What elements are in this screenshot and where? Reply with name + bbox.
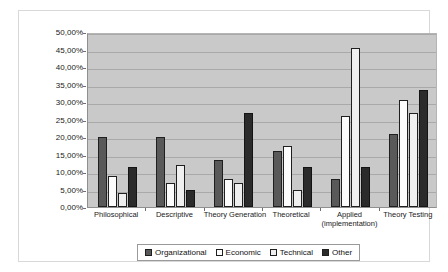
bar-organizational [273, 151, 282, 207]
y-axis: 50,00%45,00%40,00%35,00%30,00%25,00%20,0… [31, 33, 83, 208]
bar-technical [351, 48, 360, 207]
legend-swatch-icon [216, 249, 223, 256]
bar-other [361, 167, 370, 207]
y-axis-tick-label: 25,00% [35, 117, 83, 125]
y-axis-tick-mark [83, 173, 86, 174]
bar-technical [293, 190, 302, 208]
bar-technical [176, 165, 185, 207]
legend-label: Organizational [155, 248, 207, 257]
bar-organizational [214, 160, 223, 207]
y-axis-tick-mark [83, 86, 86, 87]
y-axis-tick-label: 5,00% [35, 187, 83, 195]
y-axis-tick-label: 0,00% [35, 204, 83, 212]
y-axis-tick-mark [83, 208, 86, 209]
legend-entry: Economic [216, 248, 261, 257]
legend-label: Technical [280, 248, 313, 257]
x-axis-tick-mark [379, 208, 380, 211]
bar-group [263, 34, 321, 207]
x-axis-tick-label: Theory Generation [204, 210, 262, 219]
bar-organizational [156, 137, 165, 207]
bar-other [244, 113, 253, 208]
legend-swatch-icon [270, 249, 277, 256]
x-axis-tick-label-line: Theory Generation [204, 210, 267, 219]
bar-organizational [331, 179, 340, 207]
y-axis-tick-label: 15,00% [35, 152, 83, 160]
x-axis-tick-label-line: (implementation) [320, 219, 378, 228]
bar-group [321, 34, 379, 207]
bar-group [88, 34, 146, 207]
legend-label: Economic [226, 248, 261, 257]
bar-technical [409, 113, 418, 208]
bar-group [380, 34, 438, 207]
legend-entry: Other [322, 248, 352, 257]
legend-label: Other [332, 248, 352, 257]
x-axis-tick-label: Theoretical [262, 210, 320, 219]
x-axis-tick-mark [320, 208, 321, 211]
plot-area [87, 33, 437, 208]
bar-technical [118, 193, 127, 207]
bar-group [146, 34, 204, 207]
x-axis-tick-mark [204, 208, 205, 211]
y-axis-tick-label: 20,00% [35, 134, 83, 142]
bar-economic [283, 146, 292, 207]
bar-economic [166, 183, 175, 208]
x-axis-tick-label: Philosophical [87, 210, 145, 219]
y-axis-tick-mark [83, 51, 86, 52]
legend-entry: Organizational [145, 248, 207, 257]
bar-economic [108, 176, 117, 208]
y-axis-tick-mark [83, 68, 86, 69]
y-axis-tick-label: 10,00% [35, 169, 83, 177]
legend-swatch-icon [145, 249, 152, 256]
chart-frame: 50,00%45,00%40,00%35,00%30,00%25,00%20,0… [18, 10, 430, 262]
bar-other [419, 90, 428, 207]
x-axis-tick-label: Applied(implementation) [320, 210, 378, 228]
bar-group [205, 34, 263, 207]
bar-organizational [389, 134, 398, 208]
y-axis-tick-label: 30,00% [35, 99, 83, 107]
y-axis-tick-label: 35,00% [35, 82, 83, 90]
x-axis-tick-mark [145, 208, 146, 211]
chart-legend: OrganizationalEconomicTechnicalOther [137, 244, 360, 261]
y-axis-tick-mark [83, 33, 86, 34]
x-axis-tick-label-line: Theory Testing [383, 210, 432, 219]
bar-other [128, 167, 137, 207]
x-axis-tick-label: Descriptive [145, 210, 203, 219]
bar-economic [224, 179, 233, 207]
x-axis-tick-label-line: Philosophical [94, 210, 138, 219]
x-axis-tick-mark [262, 208, 263, 211]
legend-swatch-icon [322, 249, 329, 256]
x-axis-tick-label-line: Descriptive [156, 210, 193, 219]
x-axis: PhilosophicalDescriptiveTheory Generatio… [87, 210, 437, 238]
bar-other [303, 167, 312, 207]
legend-entry: Technical [270, 248, 313, 257]
y-axis-tick-label: 45,00% [35, 47, 83, 55]
y-axis-tick-mark [83, 121, 86, 122]
bar-organizational [98, 137, 107, 207]
x-axis-tick-label-line: Theoretical [273, 210, 310, 219]
x-axis-tick-label-line: Applied [337, 210, 362, 219]
bar-economic [341, 116, 350, 207]
bar-economic [399, 100, 408, 207]
bar-other [186, 190, 195, 208]
x-axis-tick-label: Theory Testing [379, 210, 437, 219]
y-axis-tick-mark [83, 191, 86, 192]
y-axis-tick-mark [83, 156, 86, 157]
y-axis-tick-label: 50,00% [35, 29, 83, 37]
y-axis-tick-mark [83, 103, 86, 104]
bar-technical [234, 183, 243, 208]
y-axis-tick-mark [83, 138, 86, 139]
y-axis-tick-label: 40,00% [35, 64, 83, 72]
